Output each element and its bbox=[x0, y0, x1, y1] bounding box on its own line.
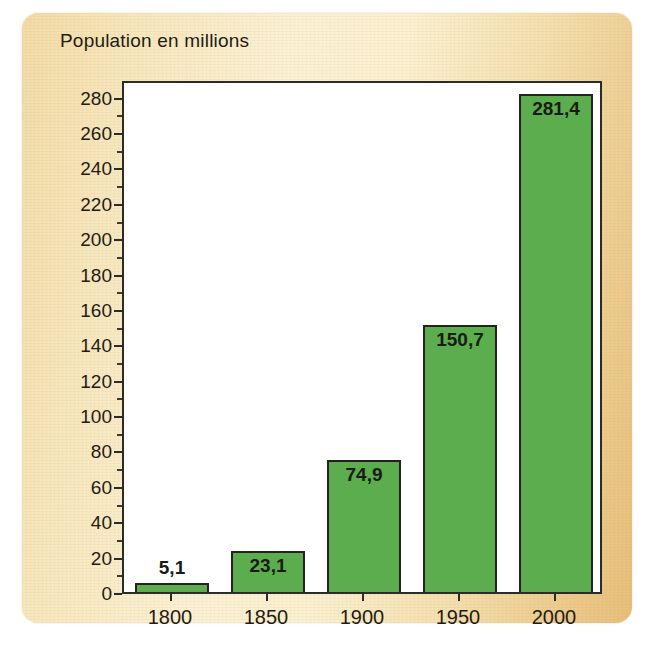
y-axis-tick-label: 240 bbox=[80, 158, 112, 180]
y-axis-tick-label: 40 bbox=[91, 512, 112, 534]
y-axis-tick-major bbox=[114, 275, 122, 277]
bar-value-label: 281,4 bbox=[519, 98, 593, 120]
y-axis-tick-label: 220 bbox=[80, 194, 112, 216]
y-axis-tick-major bbox=[114, 168, 122, 170]
plot-area: 5,123,174,9150,7281,4 bbox=[122, 81, 602, 594]
bar-group: 74,9 bbox=[327, 79, 401, 592]
y-axis-tick-major bbox=[114, 487, 122, 489]
bar[interactable] bbox=[519, 94, 593, 592]
y-axis-tick-major bbox=[114, 416, 122, 418]
y-axis-tick-label: 280 bbox=[80, 88, 112, 110]
bar-group: 150,7 bbox=[423, 79, 497, 592]
x-axis-tick-label: 1850 bbox=[244, 606, 289, 629]
y-axis-tick-label: 100 bbox=[80, 406, 112, 428]
y-axis: 020406080100120140160180200220240260280 bbox=[22, 13, 122, 623]
bar-group: 23,1 bbox=[231, 79, 305, 592]
y-axis-tick-major bbox=[114, 345, 122, 347]
y-axis-tick-major bbox=[114, 133, 122, 135]
y-axis-tick-label: 200 bbox=[80, 229, 112, 251]
bar[interactable] bbox=[135, 583, 209, 592]
bar-value-label: 5,1 bbox=[121, 557, 223, 579]
y-axis-tick-label: 20 bbox=[91, 548, 112, 570]
y-axis-tick-label: 0 bbox=[101, 583, 112, 605]
bar-group: 281,4 bbox=[519, 79, 593, 592]
y-axis-tick-label: 160 bbox=[80, 300, 112, 322]
bar-value-label: 23,1 bbox=[231, 555, 305, 577]
x-axis-tick bbox=[362, 594, 364, 601]
x-axis-tick bbox=[170, 594, 172, 601]
y-axis-tick-label: 60 bbox=[91, 477, 112, 499]
bar[interactable] bbox=[423, 325, 497, 592]
y-axis-tick-label: 260 bbox=[80, 123, 112, 145]
bars-layer: 5,123,174,9150,7281,4 bbox=[124, 83, 600, 592]
bar-group: 5,1 bbox=[135, 79, 209, 592]
x-axis-tick bbox=[458, 594, 460, 601]
y-axis-tick-label: 80 bbox=[91, 441, 112, 463]
bar-value-label: 150,7 bbox=[423, 329, 497, 351]
x-axis-tick-label: 1800 bbox=[148, 606, 193, 629]
x-axis-tick-label: 1950 bbox=[436, 606, 481, 629]
y-axis-tick-label: 120 bbox=[80, 371, 112, 393]
y-axis-tick-major bbox=[114, 381, 122, 383]
x-axis-tick bbox=[266, 594, 268, 601]
x-axis-tick-label: 1900 bbox=[340, 606, 385, 629]
y-axis-tick-major bbox=[114, 310, 122, 312]
y-axis-tick-major bbox=[114, 98, 122, 100]
y-axis-tick-major bbox=[114, 522, 122, 524]
x-axis: 18001850190019502000 bbox=[122, 594, 602, 639]
chart-panel: Population en millions 02040608010012014… bbox=[22, 13, 632, 623]
y-axis-tick-major bbox=[114, 239, 122, 241]
y-axis-tick-major bbox=[114, 593, 122, 595]
x-axis-tick bbox=[554, 594, 556, 601]
y-axis-tick-label: 180 bbox=[80, 265, 112, 287]
y-axis-tick-label: 140 bbox=[80, 335, 112, 357]
y-axis-tick-major bbox=[114, 451, 122, 453]
bar-value-label: 74,9 bbox=[327, 464, 401, 486]
x-axis-tick-label: 2000 bbox=[532, 606, 577, 629]
y-axis-tick-major bbox=[114, 204, 122, 206]
figure-root: Population en millions 02040608010012014… bbox=[0, 0, 654, 650]
